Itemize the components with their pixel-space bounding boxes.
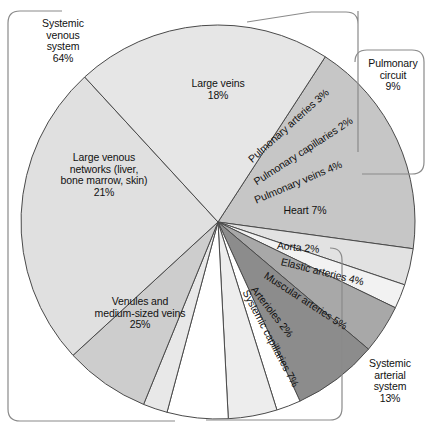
group-label-pulmonary-circuit: Pulmonarycircuit9% bbox=[355, 58, 431, 93]
slice-label-venules: Venules andmedium-sized veins25% bbox=[60, 296, 220, 331]
slice-label-large-venous-networks: Large venousnetworks (liver,bone marrow,… bbox=[33, 152, 175, 198]
pie-chart-figure: Large veins18% Venules andmedium-sized v… bbox=[0, 0, 432, 443]
group-label-systemic-venous-system: Systemicvenoussystem64% bbox=[16, 18, 110, 64]
slice-label-heart: Heart 7% bbox=[270, 205, 340, 217]
group-label-systemic-arterial-system: Systemicarterialsystem13% bbox=[352, 358, 428, 404]
bracket-connector-pulmonary-top bbox=[247, 12, 311, 22]
slice-label-large-veins: Large veins18% bbox=[170, 78, 266, 101]
